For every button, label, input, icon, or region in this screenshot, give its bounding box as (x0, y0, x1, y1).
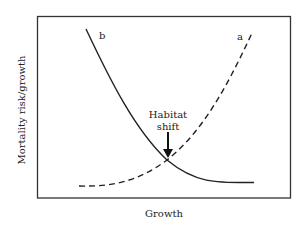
y-axis-label: Mortality risk/growth (16, 55, 27, 165)
curve-b (86, 29, 254, 183)
x-axis-label: Growth (145, 208, 183, 219)
diagram-canvas: b a Habitat shift Growth Mortality risk/… (0, 0, 304, 227)
curve-a-label: a (237, 31, 243, 42)
annotation-line2: shift (157, 121, 180, 132)
annotation-line1: Habitat (149, 109, 187, 120)
plot-frame (38, 17, 291, 199)
curve-b-label: b (99, 30, 105, 41)
